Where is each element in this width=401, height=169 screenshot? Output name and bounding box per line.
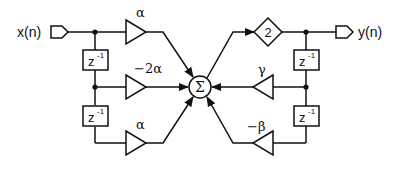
delay-block: z -1 bbox=[83, 106, 108, 126]
gain-triangle: α bbox=[126, 5, 146, 44]
svg-text:z: z bbox=[88, 110, 95, 125]
input-label: x(n) bbox=[17, 24, 41, 40]
svg-text:γ: γ bbox=[258, 62, 266, 77]
svg-text:z: z bbox=[299, 110, 306, 125]
svg-text:−β: −β bbox=[247, 119, 265, 134]
gain-triangle: α bbox=[126, 117, 146, 155]
gain-triangle: γ bbox=[253, 62, 273, 99]
svg-text:α: α bbox=[136, 5, 145, 20]
delay-block: z -1 bbox=[294, 50, 319, 70]
delay-block: z -1 bbox=[294, 106, 319, 126]
delay-block: z -1 bbox=[83, 50, 108, 70]
junction-node bbox=[303, 29, 308, 34]
svg-text:α: α bbox=[136, 117, 145, 132]
junction-node bbox=[303, 84, 308, 89]
svg-text:-1: -1 bbox=[308, 107, 316, 116]
svg-text:-1: -1 bbox=[308, 51, 316, 60]
svg-text:2: 2 bbox=[264, 25, 271, 40]
summing-junction: Σ bbox=[189, 76, 211, 98]
svg-text:−2α: −2α bbox=[134, 61, 162, 76]
junction-node bbox=[92, 84, 97, 89]
scaler-diamond: 2 bbox=[254, 18, 282, 46]
svg-text:z: z bbox=[299, 54, 306, 69]
output-port-icon bbox=[336, 26, 353, 38]
input-port-icon bbox=[51, 26, 68, 38]
svg-text:z: z bbox=[88, 54, 95, 69]
gain-triangle: −β bbox=[247, 119, 273, 155]
svg-text:Σ: Σ bbox=[195, 79, 205, 95]
svg-text:-1: -1 bbox=[97, 51, 105, 60]
junction-node bbox=[92, 29, 97, 34]
output-label: y(n) bbox=[358, 24, 382, 40]
block-diagram: x(n) z -1 z -1 α −2α α Σ bbox=[0, 0, 401, 169]
svg-text:-1: -1 bbox=[97, 107, 105, 116]
gain-triangle: −2α bbox=[126, 61, 162, 99]
